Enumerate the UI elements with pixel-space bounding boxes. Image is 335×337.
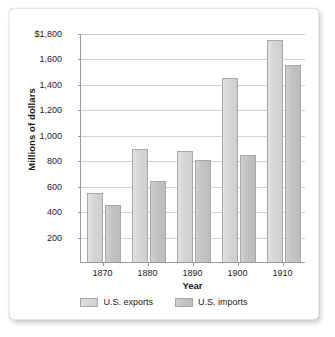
y-tick-mark bbox=[78, 34, 81, 35]
y-tick-mark bbox=[78, 59, 81, 60]
legend-swatch-icon bbox=[175, 298, 193, 307]
y-tick-mark bbox=[78, 238, 81, 239]
x-tick-mark bbox=[193, 263, 194, 266]
bar-1900-imports bbox=[240, 155, 256, 263]
bar-1890-imports bbox=[195, 160, 211, 262]
y-tick-mark bbox=[78, 212, 81, 213]
y-tick-label: 600 bbox=[2, 182, 62, 192]
bar-1910-imports bbox=[285, 65, 301, 262]
x-tick-mark bbox=[103, 263, 104, 266]
legend-item-imports[interactable]: U.S. imports bbox=[175, 297, 248, 307]
bar-1880-imports bbox=[150, 181, 166, 262]
y-tick-label: 200 bbox=[2, 233, 62, 243]
y-tick-label: 1,200 bbox=[2, 105, 62, 115]
y-tick-label: $1,800 bbox=[2, 29, 62, 39]
bar-1890-exports bbox=[177, 151, 193, 262]
bar-1870-imports bbox=[105, 205, 121, 262]
y-tick-mark bbox=[78, 187, 81, 188]
x-tick-mark bbox=[238, 263, 239, 266]
y-tick-label: 1,400 bbox=[2, 80, 62, 90]
chart-card: Millions of dollars 2004006008001,0001,2… bbox=[9, 8, 319, 320]
y-tick-mark bbox=[78, 161, 81, 162]
y-tick-label: 800 bbox=[2, 156, 62, 166]
bar-1870-exports bbox=[87, 193, 103, 262]
legend-swatch-icon bbox=[80, 298, 98, 307]
chart-legend: U.S. exportsU.S. imports bbox=[10, 297, 318, 307]
y-tick-mark bbox=[78, 136, 81, 137]
chart-plot-wrapper: Millions of dollars 2004006008001,0001,2… bbox=[10, 9, 318, 319]
legend-label: U.S. exports bbox=[103, 297, 153, 307]
bar-1880-exports bbox=[132, 149, 148, 262]
plot-area: 2004006008001,0001,2001,4001,600$1,800 bbox=[80, 34, 305, 263]
gridline bbox=[81, 34, 305, 35]
x-axis-title: Year bbox=[80, 280, 305, 291]
y-tick-mark bbox=[78, 85, 81, 86]
y-tick-label: 400 bbox=[2, 207, 62, 217]
x-tick-mark bbox=[283, 263, 284, 266]
y-tick-label: 1,600 bbox=[2, 54, 62, 64]
x-tick-mark bbox=[148, 263, 149, 266]
y-tick-label: 1,000 bbox=[2, 131, 62, 141]
bar-1910-exports bbox=[267, 40, 283, 262]
legend-label: U.S. imports bbox=[198, 297, 248, 307]
x-tick-label-1910: 1910 bbox=[253, 268, 313, 278]
legend-item-exports[interactable]: U.S. exports bbox=[80, 297, 153, 307]
bar-1900-exports bbox=[222, 78, 238, 262]
y-tick-mark bbox=[78, 110, 81, 111]
